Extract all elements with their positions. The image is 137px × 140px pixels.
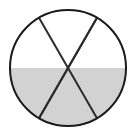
fraction-circle-figure: [0, 0, 137, 140]
unshaded-sector-group: [10, 10, 126, 68]
circle-diagram-svg: [0, 0, 137, 140]
shaded-sector-group: [10, 68, 126, 126]
